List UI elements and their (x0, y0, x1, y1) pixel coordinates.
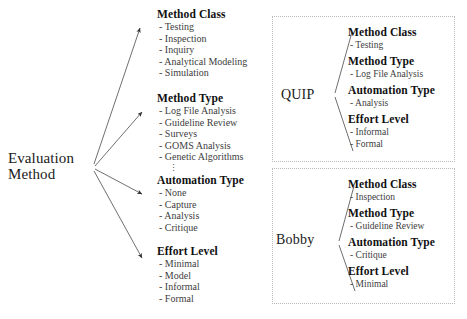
facet-item: - Model (157, 270, 218, 282)
facet-item: - Guideline Review (157, 117, 243, 129)
quip-attribute-list: Method Class - Testing Method Type - Log… (348, 25, 435, 150)
facet-method-class: Method Class - Testing - Inspection - In… (157, 8, 247, 79)
example-heading: Method Type (348, 54, 435, 68)
facet-item: - Genetic Algorithms (157, 151, 243, 163)
example-item: - Informal (348, 126, 435, 138)
example-item: - Minimal (348, 278, 435, 290)
facet-method-type: Method Type - Log File Analysis - Guidel… (157, 92, 243, 173)
facet-effort-level: Effort Level - Minimal - Model - Informa… (157, 245, 218, 304)
bobby-group-automation-type: Automation Type - Critique (348, 235, 435, 261)
facet-heading: Effort Level (157, 245, 218, 258)
example-name-quip: QUIP (281, 87, 314, 102)
facet-item: - Informal (157, 281, 218, 293)
bobby-attribute-list: Method Class - Inspection Method Type - … (348, 177, 435, 290)
example-item: - Analysis (348, 97, 435, 109)
root-label-line-1: Evaluation (8, 150, 96, 166)
bobby-group-method-class: Method Class - Inspection (348, 177, 435, 203)
example-name-bobby: Bobby (276, 232, 314, 247)
example-heading: Automation Type (348, 235, 435, 249)
facet-item: - Simulation (157, 67, 247, 79)
facet-automation-type: Automation Type - None - Capture - Analy… (157, 174, 244, 233)
example-box-quip: QUIP Method Class - Testing Method Type … (272, 16, 455, 162)
example-item: - Log File Analysis (348, 68, 435, 80)
example-heading: Effort Level (348, 112, 435, 126)
example-heading: Method Class (348, 177, 435, 191)
arrow-to-automation-type (95, 169, 142, 194)
facet-item: - Capture (157, 199, 244, 211)
example-heading: Automation Type (348, 83, 435, 97)
facet-item: - Formal (157, 293, 218, 305)
facet-item: - Log File Analysis (157, 105, 243, 117)
quip-group-automation-type: Automation Type - Analysis (348, 83, 435, 109)
example-heading: Effort Level (348, 264, 435, 278)
facet-item: - Minimal (157, 258, 218, 270)
facet-item: - GOMS Analysis (157, 140, 243, 152)
arrow-to-method-type (95, 112, 142, 166)
example-item: - Inspection (348, 191, 435, 203)
facet-item: - Inspection (157, 33, 247, 45)
facet-heading: Automation Type (157, 174, 244, 187)
root-node-evaluation-method: Evaluation Method (8, 150, 96, 182)
arrow-to-effort-level (94, 171, 142, 258)
example-item: - Critique (348, 249, 435, 261)
bobby-group-method-type: Method Type - Guideline Review (348, 206, 435, 232)
example-heading: Method Class (348, 25, 435, 39)
facet-item: - Inquiry (157, 44, 247, 56)
bobby-group-effort-level: Effort Level - Minimal (348, 264, 435, 290)
facet-item: - None (157, 187, 244, 199)
example-item: - Formal (348, 138, 435, 150)
facet-heading: Method Class (157, 8, 247, 21)
example-heading: Method Type (348, 206, 435, 220)
root-label-line-2: Method (8, 166, 96, 182)
diagram-canvas: Evaluation Method Method Class - Testing… (0, 0, 467, 319)
facet-ellipsis: ⋮ (157, 163, 243, 173)
facet-item: - Surveys (157, 128, 243, 140)
facet-item: - Testing (157, 21, 247, 33)
example-box-bobby: Bobby Method Class - Inspection Method T… (272, 168, 455, 304)
quip-group-method-type: Method Type - Log File Analysis (348, 54, 435, 80)
example-item: - Testing (348, 39, 435, 51)
facet-heading: Method Type (157, 92, 243, 105)
facet-item: - Analysis (157, 210, 244, 222)
quip-group-method-class: Method Class - Testing (348, 25, 435, 51)
facet-item: - Analytical Modeling (157, 56, 247, 68)
example-item: - Guideline Review (348, 220, 435, 232)
facet-item: - Critique (157, 222, 244, 234)
quip-group-effort-level: Effort Level - Informal - Formal (348, 112, 435, 150)
arrow-to-method-class (94, 28, 140, 164)
